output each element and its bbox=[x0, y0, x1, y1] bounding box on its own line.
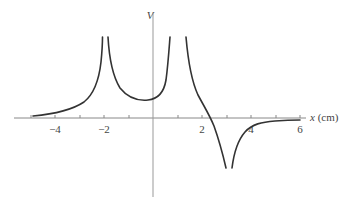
x-axis-unit: (cm) bbox=[315, 111, 339, 124]
potential-curve bbox=[33, 37, 300, 168]
curve-left-branch bbox=[33, 37, 103, 116]
curve-right-descending bbox=[186, 37, 226, 168]
x-axis-label: x (cm) bbox=[309, 111, 339, 124]
curve-right-rising bbox=[232, 120, 300, 168]
curve-central-well bbox=[108, 37, 170, 100]
x-tick-label-m4: −4 bbox=[49, 123, 61, 135]
x-tick-label-6: 6 bbox=[297, 123, 303, 135]
x-tick-label-2: 2 bbox=[199, 123, 205, 135]
potential-energy-chart: −4 −2 2 4 6 V x (cm) bbox=[0, 0, 347, 197]
x-tick-label-m2: −2 bbox=[98, 123, 110, 135]
